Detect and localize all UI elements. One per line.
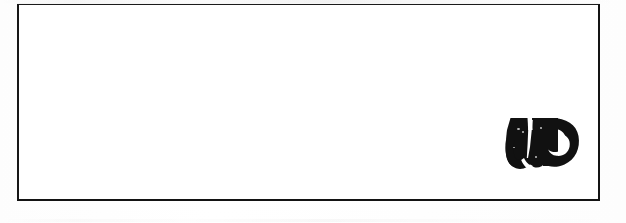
scanned-page	[0, 0, 626, 223]
blank-bordered-box	[17, 4, 600, 201]
logo-junction-block	[543, 118, 558, 166]
w-monogram-logo-icon	[494, 114, 590, 174]
